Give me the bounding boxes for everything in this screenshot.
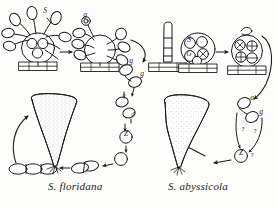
label-left-l-g-top: g <box>83 10 87 19</box>
caption-species-left: S. floridana <box>48 180 102 192</box>
label-right-r-q2: ? <box>253 127 256 135</box>
label-left-l-s: S <box>43 6 47 15</box>
sporulating-thallus <box>1 6 72 71</box>
crossed-circle <box>235 40 245 50</box>
empty-thallus <box>71 17 132 72</box>
label-right-r-s: S <box>187 35 191 44</box>
arrow <box>236 113 240 148</box>
label-right-r-q1: ? <box>241 125 244 133</box>
minus-circle <box>247 53 257 63</box>
label-left-l-male: ♂ <box>130 109 137 119</box>
mature-trumpet-thallus <box>164 95 209 175</box>
arrow <box>214 160 231 163</box>
meiotic-thallus <box>228 27 266 74</box>
gamete-g <box>244 109 260 124</box>
label-left-l-female: ♀ <box>121 91 128 101</box>
plus-circle <box>247 41 257 51</box>
label-left-l-g-2: g <box>140 69 144 78</box>
arrow <box>131 40 145 62</box>
caption-species-right: S. abyssicola <box>168 180 228 192</box>
gametangium-thallus <box>179 33 217 73</box>
life-cycle-figure: Sggg♀♂ZSGag??Z? S. floridana S. abyssico… <box>0 0 278 209</box>
label-right-r-g: G <box>186 49 192 58</box>
arrow <box>103 164 113 166</box>
germinating-cell <box>115 153 128 166</box>
three-celled-germling <box>9 164 57 174</box>
label-left-l-g-1: g <box>129 56 133 65</box>
label-right-r-q3: ? <box>250 151 253 159</box>
two-celled-germling <box>71 160 99 174</box>
life-cycle-drawing: Sggg♀♂ZSGag??Z? <box>0 0 278 209</box>
mature-trumpet-thallus <box>31 94 76 174</box>
arrow <box>249 118 262 152</box>
arrow <box>132 88 134 96</box>
plus-circle <box>236 52 246 62</box>
arrow <box>13 116 28 163</box>
label-right-r-g1: g <box>259 107 263 116</box>
label-right-r-a1: a <box>250 93 254 102</box>
